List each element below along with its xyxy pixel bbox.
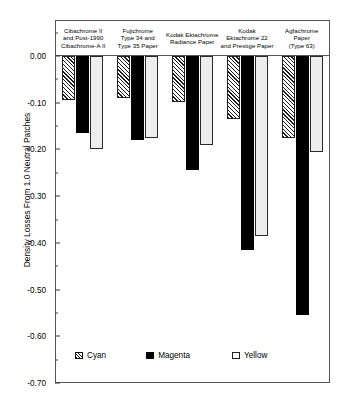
category-header-label: KodakEktachrome 22and Prestige Paper xyxy=(220,27,275,49)
legend-swatch-yellow-icon xyxy=(232,352,240,360)
bar-yellow xyxy=(310,56,323,152)
category-header-label: Kodak EktachromeRadiance Paper xyxy=(165,31,220,46)
bar-magenta xyxy=(131,56,144,140)
category-header-line: Agfachrome xyxy=(276,27,329,34)
category-header-line: Radiance Paper xyxy=(166,38,219,45)
bar-cyan xyxy=(117,56,130,98)
bar-magenta xyxy=(186,56,199,170)
y-tick-major xyxy=(55,336,60,337)
bar-magenta xyxy=(296,56,309,315)
category-header-label: FujichromeType 34 andType 35 Paper xyxy=(111,27,166,49)
y-tick-major xyxy=(55,383,60,384)
chart-container: Density Losses From 1.0 Neutral Patches … xyxy=(0,0,346,407)
bar-cyan xyxy=(282,56,295,138)
y-tick-minor xyxy=(55,312,58,313)
category-header-label: Cibachrome IIand Post-1990Cibachrome-A I… xyxy=(56,27,111,49)
bar-magenta xyxy=(76,56,89,133)
legend-label: Cyan xyxy=(87,351,106,360)
y-tick-minor xyxy=(55,266,58,267)
y-tick-minor xyxy=(55,219,58,220)
chart-legend: CyanMagentaYellow xyxy=(75,351,267,360)
y-tick-label: -0.70 xyxy=(27,379,46,388)
category-header-box: Cibachrome IIand Post-1990Cibachrome-A I… xyxy=(55,20,330,56)
y-tick-label: 0.00 xyxy=(30,52,46,61)
y-tick-label: -0.10 xyxy=(27,98,46,107)
legend-item-yellow[interactable]: Yellow xyxy=(232,351,267,360)
legend-swatch-cyan-icon xyxy=(75,352,83,360)
category-header-line: Kodak xyxy=(221,27,274,34)
y-tick-major xyxy=(55,56,60,57)
y-tick-major xyxy=(55,196,60,197)
legend-label: Magenta xyxy=(158,351,190,360)
category-header-label: AgfachromePaper(Type 63) xyxy=(275,27,330,49)
bar-cyan xyxy=(227,56,240,119)
bar-yellow xyxy=(90,56,103,149)
y-axis: 0.00-0.10-0.20-0.30-0.40-0.50-0.60-0.70 xyxy=(0,0,55,407)
y-tick-major xyxy=(55,102,60,103)
legend-item-cyan[interactable]: Cyan xyxy=(75,351,106,360)
y-tick-major xyxy=(55,242,60,243)
legend-item-magenta[interactable]: Magenta xyxy=(146,351,190,360)
bar-yellow xyxy=(255,56,268,236)
category-header-line: Ektachrome 22 xyxy=(221,34,274,41)
category-header-line: Kodak Ektachrome xyxy=(166,31,219,38)
y-tick-label: -0.20 xyxy=(27,145,46,154)
category-header-line: Paper xyxy=(276,34,329,41)
category-header-line: Type 35 Paper xyxy=(112,42,165,49)
bar-cyan xyxy=(62,56,75,100)
y-tick-label: -0.60 xyxy=(27,332,46,341)
bar-cyan xyxy=(172,56,185,102)
category-header-line: and Post-1990 xyxy=(57,34,110,41)
y-tick-label: -0.50 xyxy=(27,285,46,294)
category-header-line: Cibachrome II xyxy=(57,27,110,34)
y-tick-minor xyxy=(55,32,58,33)
category-header-line: Cibachrome-A II xyxy=(57,42,110,49)
y-tick-minor xyxy=(55,126,58,127)
y-tick-label: -0.40 xyxy=(27,238,46,247)
legend-swatch-magenta-icon xyxy=(146,352,154,360)
category-header-line: Type 34 and xyxy=(112,34,165,41)
legend-label: Yellow xyxy=(244,351,267,360)
bar-yellow xyxy=(145,56,158,138)
category-header-line: Fujichrome xyxy=(112,27,165,34)
y-tick-minor xyxy=(55,172,58,173)
y-tick-minor xyxy=(55,359,58,360)
y-tick-major xyxy=(55,149,60,150)
bar-yellow xyxy=(200,56,213,145)
category-header-line: and Prestige Paper xyxy=(221,42,274,49)
plot-area xyxy=(55,56,330,383)
category-header-line: (Type 63) xyxy=(276,42,329,49)
y-tick-label: -0.30 xyxy=(27,192,46,201)
y-tick-major xyxy=(55,289,60,290)
y-tick-minor xyxy=(55,79,58,80)
bar-magenta xyxy=(241,56,254,250)
